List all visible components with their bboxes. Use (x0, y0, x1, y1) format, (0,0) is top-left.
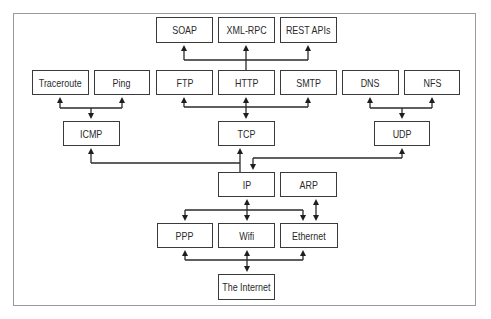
edge-tcp-to-app-protocols (184, 100, 308, 116)
node-text: TCP (238, 128, 256, 140)
node-label-xmlrpc: XML-RPC (218, 17, 275, 43)
node-text: PPP (176, 230, 194, 242)
node-text: Traceroute (39, 77, 82, 89)
edge-udp-to-services (370, 100, 432, 116)
node-text: FTP (176, 77, 193, 89)
node-text: The Internet (222, 281, 270, 293)
edge-internet-to-link-layer (185, 253, 303, 269)
node-label-tcp: TCP (218, 121, 275, 146)
node-text: REST APIs (286, 24, 330, 36)
edge-ip-to-icmp-tcp (91, 151, 240, 172)
node-text: HTTP (235, 77, 258, 89)
node-label-udp: UDP (374, 121, 430, 146)
node-label-rest: REST APIs (280, 17, 337, 43)
connector-layer (0, 0, 491, 319)
node-label-smtp: SMTP (280, 70, 337, 95)
node-text: ICMP (80, 128, 102, 140)
node-label-ethernet: Ethernet (280, 223, 338, 248)
node-text: NFS (423, 77, 441, 89)
node-label-nfs: NFS (404, 70, 460, 95)
node-text: DNS (361, 77, 380, 89)
edge-icmp-to-tools (60, 100, 122, 116)
node-text: UDP (393, 128, 412, 140)
node-label-http: HTTP (218, 70, 275, 95)
edge-ip-udp (253, 151, 402, 167)
node-label-ftp: FTP (156, 70, 213, 95)
node-label-icmp: ICMP (63, 121, 120, 146)
node-label-wifi: Wifi (218, 223, 275, 248)
node-text: Ping (113, 77, 131, 89)
node-text: Ethernet (292, 230, 326, 242)
node-label-ppp: PPP (157, 223, 213, 248)
node-label-ip: IP (218, 172, 275, 197)
edge-http-to-app-protocols (184, 48, 308, 70)
node-text: IP (242, 179, 250, 191)
node-label-internet: The Internet (218, 274, 275, 300)
node-text: SOAP (172, 24, 197, 36)
node-text: Wifi (239, 230, 254, 242)
node-label-traceroute: Traceroute (32, 70, 89, 95)
node-label-ping: Ping (94, 70, 150, 95)
node-text: SMTP (296, 77, 321, 89)
node-label-soap: SOAP (156, 17, 213, 43)
edge-ip-to-link-layer (185, 202, 303, 218)
node-text: ARP (299, 179, 317, 191)
node-text: XML-RPC (226, 24, 266, 36)
node-label-arp: ARP (280, 172, 337, 197)
node-label-dns: DNS (342, 70, 399, 95)
